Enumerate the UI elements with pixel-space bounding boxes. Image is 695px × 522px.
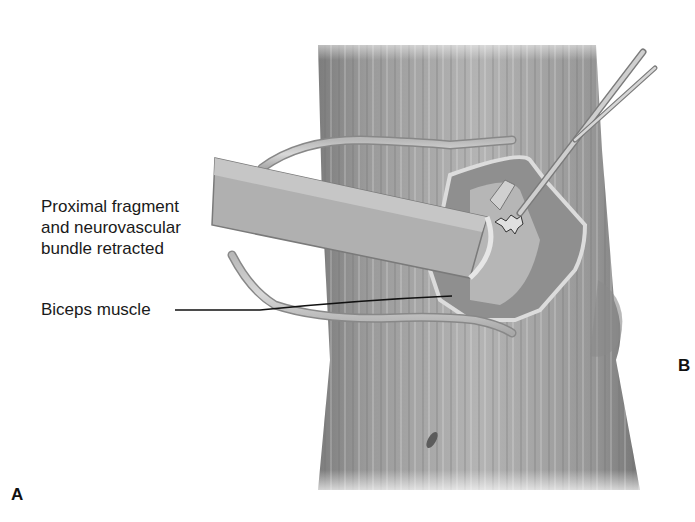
surgical-illustration (0, 0, 695, 522)
label-proximal-line2: and neurovascular (41, 217, 181, 238)
panel-label-b: B (678, 356, 690, 376)
label-proximal-fragment: Proximal fragment and neurovascular bund… (41, 196, 181, 259)
panel-label-a: A (11, 485, 23, 505)
label-biceps-muscle: Biceps muscle (41, 299, 151, 320)
label-proximal-line1: Proximal fragment (41, 196, 181, 217)
label-proximal-line3: bundle retracted (41, 238, 181, 259)
